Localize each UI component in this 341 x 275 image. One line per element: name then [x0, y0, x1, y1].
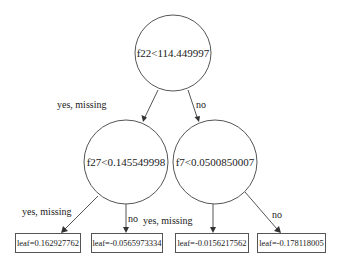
tree-node-root: f22<114.449997 — [135, 15, 211, 91]
root-node-label: f22<114.449997 — [137, 47, 210, 59]
leaf-label: leaf=0.162927762 — [17, 238, 79, 248]
left-node-label: f27<0.145549998 — [87, 156, 166, 168]
tree-node-left: f27<0.145549998 — [84, 120, 168, 204]
right-node-label: f7<0.0500850007 — [176, 156, 255, 168]
leaf-node: leaf=-0.178118005 — [258, 234, 326, 253]
leaf-label: leaf=-0.178118005 — [259, 238, 324, 248]
arrowhead-icon — [123, 227, 129, 233]
leaf-node: leaf=-0.0565973334 — [92, 234, 163, 253]
leaf-node: leaf=-0.0156217562 — [176, 234, 249, 253]
edge-label-root-no: no — [196, 99, 206, 110]
edge-label-n1-no: no — [128, 213, 138, 224]
edge-label-n2-yes: yes, missing — [143, 215, 192, 226]
edge-label-n1-yes: yes, missing — [22, 206, 71, 217]
leaf-label: leaf=-0.0156217562 — [177, 238, 246, 248]
edge-root-to-n1 — [145, 90, 158, 117]
leaf-nodes: leaf=0.162927762 leaf=-0.0565973334 leaf… — [16, 234, 326, 253]
arrowhead-icon — [142, 115, 148, 122]
tree-node-right: f7<0.0500850007 — [173, 120, 257, 204]
leaf-node: leaf=0.162927762 — [16, 234, 81, 253]
edge-label-n2-no: no — [272, 209, 282, 220]
decision-tree-diagram: yes, missing no yes, missing no yes, mis… — [0, 0, 341, 275]
arrowhead-icon — [195, 116, 201, 122]
arrowhead-icon — [210, 227, 216, 233]
leaf-label: leaf=-0.0565973334 — [92, 238, 162, 248]
edge-label-root-yes: yes, missing — [57, 99, 106, 110]
